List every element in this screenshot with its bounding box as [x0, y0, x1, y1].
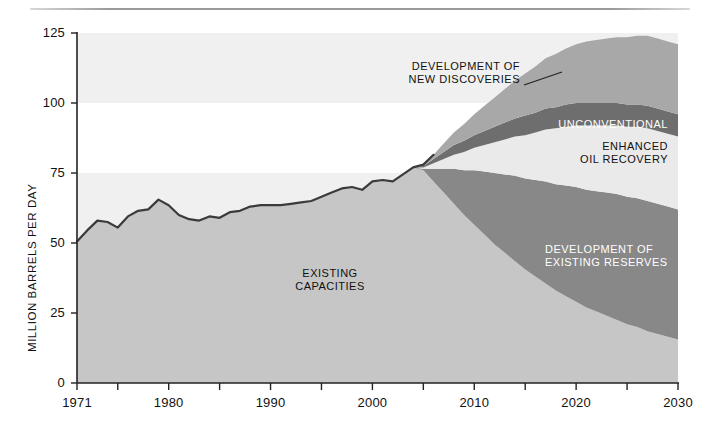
x-tick-label-2010: 2010 [444, 395, 504, 410]
annotation-existing-capacities-line2: CAPACITIES [265, 280, 395, 293]
annotation-existing-reserves-line1: DEVELOPMENT OF [545, 243, 709, 256]
annotation-eor-line2: OIL RECOVERY [450, 153, 668, 166]
y-tick-label-125: 125 [19, 25, 65, 40]
annotation-existing-reserves: DEVELOPMENT OF EXISTING RESERVES [545, 243, 709, 269]
chart-figure: MILLION BARRELS PER DAY 0255075100125 19… [0, 0, 709, 439]
annotation-existing-capacities-line1: EXISTING [265, 267, 395, 280]
annotation-new-discoveries: DEVELOPMENT OF NEW DISCOVERIES [320, 60, 520, 86]
annotation-unconventional: UNCONVENTIONAL [450, 118, 668, 131]
x-tick-label-2000: 2000 [342, 395, 402, 410]
x-tick-label-2030: 2030 [648, 395, 708, 410]
annotation-unconventional-line1: UNCONVENTIONAL [450, 118, 668, 131]
y-tick-label-100: 100 [19, 95, 65, 110]
y-tick-label-50: 50 [19, 235, 65, 250]
y-tick-label-75: 75 [19, 165, 65, 180]
annotation-eor-line1: ENHANCED [450, 140, 668, 153]
annotation-new-discoveries-line2: NEW DISCOVERIES [320, 73, 520, 86]
x-tick-label-1971: 1971 [47, 395, 107, 410]
annotation-existing-capacities: EXISTING CAPACITIES [265, 267, 395, 293]
x-tick-label-1990: 1990 [241, 395, 301, 410]
annotation-new-discoveries-line1: DEVELOPMENT OF [320, 60, 520, 73]
y-tick-label-25: 25 [19, 305, 65, 320]
x-tick-label-1980: 1980 [139, 395, 199, 410]
x-tick-label-2020: 2020 [546, 395, 606, 410]
y-tick-label-0: 0 [19, 375, 65, 390]
annotation-existing-reserves-line2: EXISTING RESERVES [545, 256, 709, 269]
annotation-enhanced-oil-recovery: ENHANCED OIL RECOVERY [450, 140, 668, 166]
